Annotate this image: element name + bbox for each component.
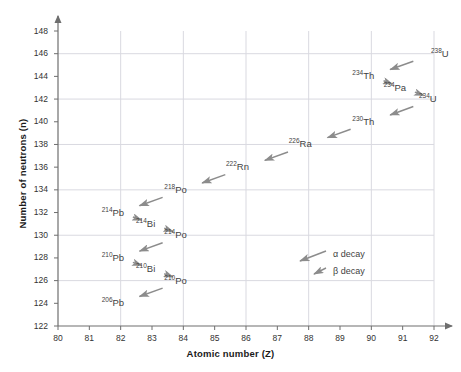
element-symbol: Po [175,229,187,240]
x-tick-label: 91 [390,333,416,343]
mass-number: 226 [289,137,300,144]
mass-number: 234 [419,92,430,99]
x-tick-label: 83 [139,333,165,343]
axis-ticks [54,31,434,330]
nuclide-label: 222Rn [226,160,249,172]
nuclide-label: 234Th [352,69,374,81]
element-symbol: Pb [113,297,125,308]
decay-arrow-alpha [139,288,162,296]
nuclide-label: 226Ra [289,137,312,149]
legend-arrows [300,251,326,274]
mass-number: 214 [136,217,147,224]
legend-arrow-alpha [300,251,326,261]
mass-number: 234 [352,69,363,76]
nuclide-label: 214Po [164,228,186,240]
element-symbol: U [442,48,449,59]
x-tick-label: 80 [45,333,71,343]
nuclide-label: 234U [419,92,437,104]
element-symbol: Po [175,184,187,195]
plot-canvas [0,0,461,372]
nuclide-label: 238U [431,47,449,59]
decay-arrows [133,61,424,296]
legend-label-beta: β decay [333,266,365,276]
decay-arrow-alpha [390,107,413,115]
nuclide-label: 234Pa [384,81,406,93]
mass-number: 206 [102,296,113,303]
mass-number: 222 [226,160,237,167]
element-symbol: Ra [300,138,312,149]
x-tick-label: 81 [76,333,102,343]
mass-number: 234 [384,81,395,88]
element-symbol: U [430,93,437,104]
mass-number: 238 [431,47,442,54]
nuclide-label: 230Th [352,115,374,127]
legend-arrow-beta [314,268,326,274]
y-tick-label: 146 [22,48,48,58]
decay-arrow-alpha [390,61,413,69]
x-tick-label: 87 [264,333,290,343]
x-tick-label: 88 [296,333,322,343]
x-tick-label: 84 [170,333,196,343]
legend-label-alpha: α decay [333,249,365,259]
element-symbol: Th [363,116,374,127]
y-tick-label: 126 [22,275,48,285]
y-tick-label: 124 [22,298,48,308]
nuclide-label: 210Po [164,274,186,286]
x-tick-label: 89 [327,333,353,343]
element-symbol: Pb [113,252,125,263]
x-axis-title: Atomic number (Z) [0,348,461,359]
mass-number: 210 [164,274,175,281]
x-tick-label: 92 [421,333,447,343]
mass-number: 218 [164,183,175,190]
nuclide-label: 206Pb [102,296,124,308]
nuclide-label: 214Bi [136,217,155,229]
y-tick-label: 122 [22,321,48,331]
nuclide-label: 210Pb [102,251,124,263]
element-symbol: Pa [395,82,407,93]
mass-number: 214 [102,206,113,213]
nuclide-label: 214Pb [102,206,124,218]
gridlines [58,31,434,326]
element-symbol: Po [175,275,187,286]
y-tick-label: 128 [22,252,48,262]
mass-number: 210 [102,251,113,258]
decay-arrow-alpha [139,243,162,251]
x-tick-label: 86 [233,333,259,343]
mass-number: 230 [352,115,363,122]
x-tick-label: 85 [202,333,228,343]
y-tick-label: 148 [22,26,48,36]
element-symbol: Pb [113,207,125,218]
element-symbol: Rn [237,161,249,172]
y-axis-title: Number of neutrons (n) [17,94,28,254]
x-tick-label: 82 [108,333,134,343]
decay-arrow-alpha [327,129,350,137]
mass-number: 214 [164,228,175,235]
y-tick-label: 144 [22,71,48,81]
mass-number: 210 [136,262,147,269]
element-symbol: Th [363,70,374,81]
element-symbol: Bi [147,263,155,274]
decay-arrow-alpha [139,197,162,205]
decay-arrow-alpha [265,152,288,160]
element-symbol: Bi [147,218,155,229]
nuclide-label: 210Bi [136,262,155,274]
axis-lines [58,16,452,326]
nuclide-label: 218Po [164,183,186,195]
x-tick-label: 90 [358,333,384,343]
decay-arrow-alpha [202,175,225,183]
decay-chain-chart: 238U234Th234Pa234U230Th226Ra222Rn218Po21… [0,0,461,372]
